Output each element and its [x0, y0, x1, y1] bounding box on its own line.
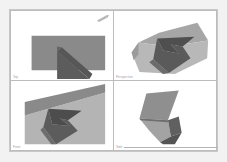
- page-edge-top: [0, 0, 227, 9]
- application-window: Top Perspective: [9, 9, 218, 152]
- viewport-top-right-canvas[interactable]: [114, 11, 216, 80]
- status-rule: [124, 147, 218, 148]
- quad-viewport-grid: Top Perspective: [10, 10, 217, 151]
- viewport-top-left[interactable]: Top: [11, 11, 113, 80]
- page-edge-left: [0, 0, 9, 162]
- viewport-bottom-left[interactable]: Front: [11, 81, 113, 150]
- view-axis-gizmo[interactable]: [96, 14, 110, 23]
- viewport-top-right[interactable]: Perspective: [114, 11, 216, 80]
- viewport-bottom-right[interactable]: Side: [114, 81, 216, 150]
- page-edge-bottom: [0, 152, 227, 162]
- viewport-bottom-right-canvas[interactable]: [114, 81, 216, 150]
- viewport-bottom-left-canvas[interactable]: [11, 81, 113, 150]
- status-strip: [124, 146, 218, 150]
- page-edge-right: [218, 0, 227, 162]
